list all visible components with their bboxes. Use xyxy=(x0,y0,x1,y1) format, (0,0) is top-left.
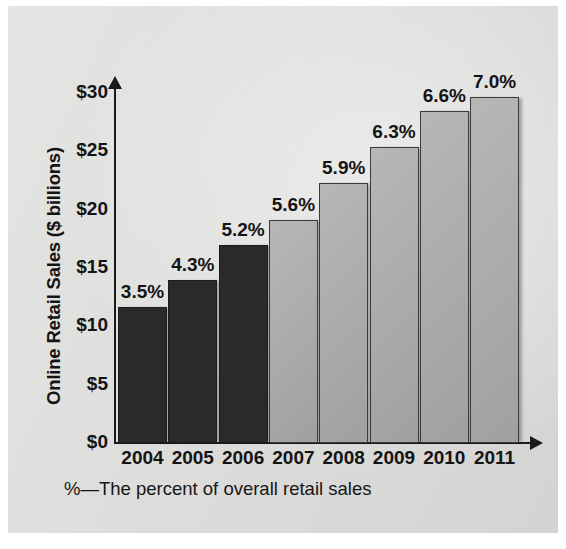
bar-value-label: 6.3% xyxy=(361,121,428,143)
bar-chart: Online Retail Sales ($ billions) $30$25$… xyxy=(0,0,566,549)
bar-value-label: 3.5% xyxy=(109,281,176,303)
bar-value-label: 5.9% xyxy=(310,157,377,179)
chart-page: Online Retail Sales ($ billions) $30$25$… xyxy=(0,0,566,549)
bar-value-label: 4.3% xyxy=(159,254,226,276)
bar-2010[interactable] xyxy=(420,111,469,444)
bar-2008[interactable] xyxy=(319,183,368,443)
bar-value-label: 5.2% xyxy=(210,219,277,241)
bar-series: 3.5%20044.3%20055.2%20065.6%20075.9%2008… xyxy=(0,0,566,549)
bar-2005[interactable] xyxy=(168,280,217,443)
bar-2006[interactable] xyxy=(219,245,268,443)
bar-2004[interactable] xyxy=(118,307,167,444)
bar-2009[interactable] xyxy=(370,147,419,443)
bar-2007[interactable] xyxy=(269,220,318,443)
x-tick-label-2011: 2011 xyxy=(462,447,527,469)
bar-value-label: 7.0% xyxy=(461,71,528,93)
chart-footnote: %—The percent of overall retail sales xyxy=(64,478,371,500)
bar-2011[interactable] xyxy=(470,97,519,444)
bar-value-label: 5.6% xyxy=(260,194,327,216)
